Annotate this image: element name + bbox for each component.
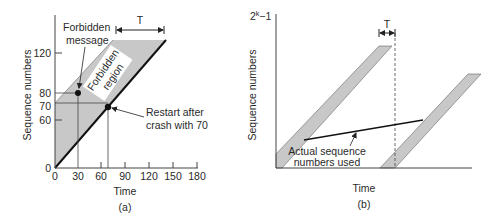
caption-a: (a) [119,201,132,213]
y-tick-label-120: 120 [33,47,51,59]
figure-canvas: 120 80 70 60 0 0 30 60 90 120 150 180 Ti… [0,0,502,223]
forbidden-message-label-line1: Forbidden [63,21,110,33]
y-tick-label-60: 60 [39,114,51,126]
forbidden-message-point [75,90,81,96]
y-axis-label-b: Sequence numbers [246,49,258,140]
restart-label-line2: crash with 70 [146,119,208,131]
caption-b: (b) [358,198,371,210]
actual-sequence-label-line2: numbers used [294,156,361,168]
forbidden-message-label-line2: message [66,34,109,46]
panel-b: T Actual sequence numbers used 2k−1 Sequ… [246,10,481,210]
y-tick-label-0: 0 [45,162,51,174]
x-axis-label-a: Time [114,185,137,197]
x-tick-label-30: 30 [72,170,84,182]
x-tick-label-60: 60 [95,170,107,182]
y-max-label: 2k−1 [250,10,271,22]
panel-a: 120 80 70 60 0 0 30 60 90 120 150 180 Ti… [21,14,208,213]
x-tick-label-120: 120 [140,170,158,182]
restart-point [105,104,111,110]
x-tick-label-0: 0 [52,170,58,182]
x-axis-label-b: Time [353,182,376,194]
restart-arrow [112,108,144,117]
restart-label-line1: Restart after [146,106,204,118]
x-tick-label-180: 180 [188,170,206,182]
y-tick-label-70: 70 [39,100,51,112]
x-tick-label-90: 90 [119,170,131,182]
y-axis-label-a: Sequence numbers [21,49,33,140]
t-interval-label-b: T [384,18,391,30]
y-max-suffix: −1 [259,10,271,22]
y-tick-label-80: 80 [39,87,51,99]
t-interval-label-a: T [137,14,144,26]
x-tick-label-150: 150 [164,170,182,182]
